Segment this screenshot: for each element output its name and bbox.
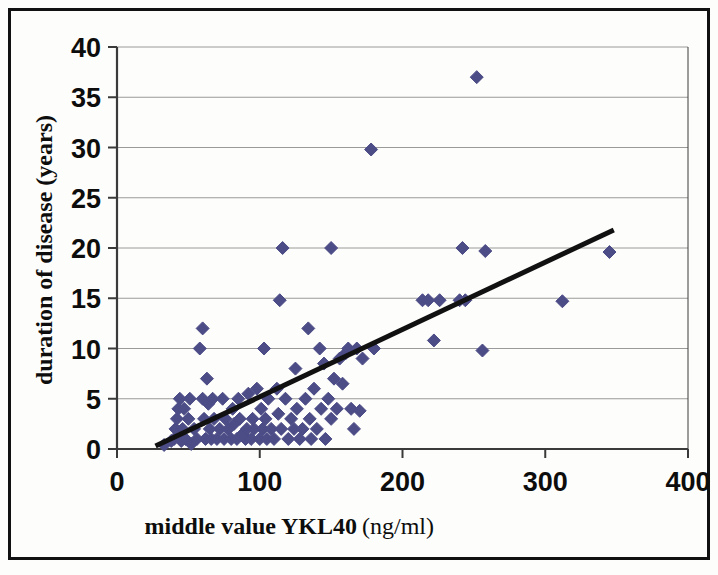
data-point — [319, 432, 332, 445]
scatter-plot: 0100200300400 0510152025303540 middle va… — [0, 0, 718, 575]
data-point — [299, 392, 312, 405]
data-point — [315, 402, 328, 415]
x-axis-title-units: (ng/ml) — [362, 513, 434, 539]
y-tick-label-35: 35 — [71, 83, 101, 113]
data-point — [272, 407, 285, 420]
data-point — [433, 294, 446, 307]
x-tick-marks-group — [117, 449, 688, 458]
data-point — [196, 322, 209, 335]
data-point — [307, 382, 320, 395]
x-tick-label-0: 0 — [109, 467, 124, 497]
data-point — [313, 342, 326, 355]
trendline — [156, 230, 614, 446]
data-point — [303, 412, 316, 425]
y-tick-label-40: 40 — [71, 33, 101, 63]
data-point — [556, 295, 569, 308]
y-tick-label-0: 0 — [86, 435, 101, 465]
data-point — [456, 242, 469, 255]
data-point — [365, 143, 378, 156]
trendline-segment — [156, 230, 614, 446]
y-tick-label-25: 25 — [71, 184, 101, 214]
y-tick-marks-group — [108, 47, 117, 449]
data-point — [470, 71, 483, 84]
data-point — [325, 242, 338, 255]
data-point — [258, 342, 271, 355]
y-tick-label-30: 30 — [71, 134, 101, 164]
data-point — [603, 246, 616, 259]
data-point — [276, 242, 289, 255]
data-point — [193, 342, 206, 355]
x-tick-label-100: 100 — [237, 467, 282, 497]
x-tick-label-400: 400 — [665, 467, 710, 497]
data-point — [322, 392, 335, 405]
data-point — [427, 334, 440, 347]
data-point — [479, 245, 492, 258]
y-tick-labels-group: 0510152025303540 — [71, 33, 101, 465]
x-tick-label-200: 200 — [380, 467, 425, 497]
data-point — [302, 322, 315, 335]
data-point — [275, 422, 288, 435]
y-tick-label-10: 10 — [71, 335, 101, 365]
x-axis-title: middle value YKL40 — [145, 513, 357, 539]
y-axis-title: duration of disease (years) — [31, 115, 57, 385]
y-tick-label-15: 15 — [71, 284, 101, 314]
y-tick-label-5: 5 — [86, 385, 101, 415]
data-point — [347, 422, 360, 435]
data-point — [200, 372, 213, 385]
data-point — [273, 294, 286, 307]
data-point — [476, 344, 489, 357]
x-tick-label-300: 300 — [523, 467, 568, 497]
y-tick-label-20: 20 — [71, 234, 101, 264]
data-point — [289, 362, 302, 375]
data-point — [216, 392, 229, 405]
data-point — [279, 392, 292, 405]
x-tick-labels-group: 0100200300400 — [109, 467, 710, 497]
figure-container: 0100200300400 0510152025303540 middle va… — [0, 0, 718, 575]
